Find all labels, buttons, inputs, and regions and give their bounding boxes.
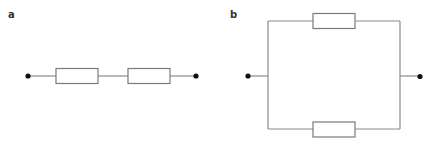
terminal-a-left <box>25 73 30 78</box>
panel-a-label: a <box>8 9 15 20</box>
panel-b-label: b <box>230 9 237 20</box>
circuit-diagram: a b <box>0 0 433 143</box>
panel-a-series-circuit: a <box>8 9 199 84</box>
terminal-b-left <box>245 73 250 78</box>
resistor-a-2 <box>128 69 170 84</box>
resistor-b-bottom <box>313 122 355 137</box>
terminal-a-right <box>193 73 198 78</box>
panel-b-parallel-circuit: b <box>230 9 423 137</box>
resistor-b-top <box>313 14 355 29</box>
resistor-a-1 <box>56 69 98 84</box>
terminal-b-right <box>417 74 422 79</box>
